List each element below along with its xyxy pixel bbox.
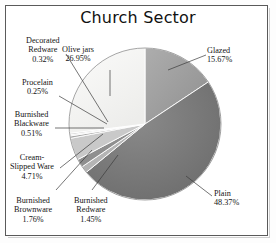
label-decorated-redware-pct: 0.32%: [26, 55, 60, 64]
label-porcelain-name: Procelain: [22, 78, 53, 87]
label-plain-pct: 48.37%: [214, 198, 239, 207]
label-olive-jars-pct: 26.95%: [62, 54, 94, 63]
label-olive-jars: Olive jars 26.95%: [62, 45, 94, 64]
label-cream-slipped-ware-name: Cream-: [20, 153, 45, 162]
label-burnished-brownware-name: Burnished: [16, 196, 50, 205]
label-burnished-redware: Burnished Redware 1.45%: [74, 196, 108, 224]
pie-chart-figure: Church Sector: [0, 0, 276, 243]
label-glazed: Glazed 15.67%: [207, 46, 232, 65]
label-decorated-redware-name2: Redware: [28, 45, 57, 54]
label-plain-name: Plain: [214, 189, 231, 198]
label-decorated-redware: Decorated Redware 0.32%: [26, 36, 60, 64]
label-glazed-name: Glazed: [207, 46, 230, 55]
pie-slices: [69, 48, 221, 200]
label-decorated-redware-name: Decorated: [26, 36, 60, 45]
label-burnished-brownware-pct: 1.76%: [14, 215, 52, 224]
label-burnished-blackware-name: Burnished: [15, 110, 49, 119]
label-cream-slipped-ware-name2: Slipped Ware: [10, 162, 54, 171]
label-burnished-blackware: Burnished Blackware 0.51%: [14, 110, 49, 138]
label-burnished-redware-name2: Redware: [76, 205, 105, 214]
label-cream-slipped-ware-pct: 4.71%: [10, 172, 54, 181]
label-burnished-brownware-name2: Brownware: [14, 205, 52, 214]
label-porcelain: Procelain 0.25%: [22, 78, 53, 97]
label-burnished-brownware: Burnished Brownware 1.76%: [14, 196, 52, 224]
label-olive-jars-name: Olive jars: [62, 45, 94, 54]
label-burnished-redware-name: Burnished: [74, 196, 108, 205]
label-burnished-blackware-pct: 0.51%: [14, 129, 49, 138]
label-burnished-redware-pct: 1.45%: [74, 215, 108, 224]
label-plain: Plain 48.37%: [214, 189, 239, 208]
label-burnished-blackware-name2: Blackware: [14, 119, 49, 128]
label-porcelain-pct: 0.25%: [22, 87, 53, 96]
label-glazed-pct: 15.67%: [207, 55, 232, 64]
label-cream-slipped-ware: Cream- Slipped Ware 4.71%: [10, 153, 54, 181]
